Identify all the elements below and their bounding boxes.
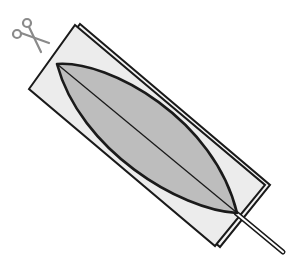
stick	[236, 213, 283, 252]
folded-paper-diagram	[0, 0, 298, 267]
scissors-icon	[13, 19, 49, 52]
